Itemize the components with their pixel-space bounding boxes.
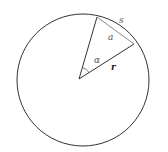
radius-label: r bbox=[111, 62, 117, 72]
circle-diagram: s a α r bbox=[0, 0, 168, 152]
circle bbox=[17, 14, 149, 146]
angle-label: α bbox=[94, 55, 100, 65]
chord-line bbox=[97, 17, 134, 44]
chord-label: a bbox=[108, 32, 113, 42]
angle-arc bbox=[82, 68, 89, 73]
arc-label: s bbox=[119, 15, 124, 25]
